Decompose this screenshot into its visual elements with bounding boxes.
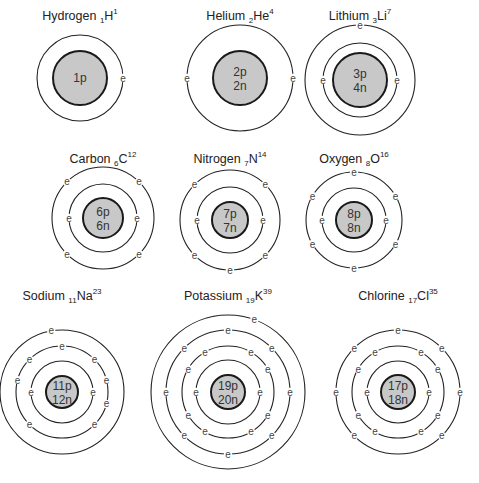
electron: e [15,375,21,386]
atom-oxygen: Oxygen 8O168p8neeeeeeee [306,150,402,274]
mass-number: 1 [113,7,118,16]
electron: e [202,426,208,437]
electron: e [355,364,361,375]
proton-count: 1p [73,71,87,85]
electron: e [393,239,399,250]
element-name: Lithium [329,9,373,23]
electron: e [225,449,231,460]
electron: e [269,343,275,354]
electron: e [333,387,339,398]
bohr-diagram: Hydrogen 1H11peHelium 2He42p2neeLithium … [0,0,479,483]
electron: e [27,354,33,365]
electron: e [227,265,233,276]
electron: e [355,410,361,421]
mass-number: 16 [380,150,389,159]
electron: e [134,213,140,224]
electron: e [92,354,98,365]
mass-number: 14 [258,150,267,159]
proton-count: 2p [233,65,247,79]
electron: e [439,343,445,354]
proton-count: 3p [353,67,367,81]
electron: e [263,179,269,190]
electron: e [48,325,54,336]
mass-number: 7 [387,7,392,16]
electron: e [181,430,187,441]
electron: e [248,426,254,437]
electron: e [395,325,401,336]
electron: e [265,364,271,375]
electron: e [351,430,357,441]
atom-label: Chlorine 17Cl35 [358,287,438,305]
electron: e [202,347,208,358]
atom-label: Nitrogen 7N14 [193,150,267,168]
element-name: Hydrogen [42,9,100,23]
electron: e [439,430,445,441]
electron: e [185,364,191,375]
neutron-count: 18n [388,393,408,407]
element-name: Carbon [70,152,114,166]
neutron-count: 6n [96,219,109,233]
atom-label: Hydrogen 1H1 [42,7,118,25]
electron: e [27,419,33,430]
neutron-count: 4n [353,81,366,95]
electron: e [192,250,198,261]
electron: e [185,410,191,421]
electron: e [383,215,389,226]
electron: e [265,410,271,421]
electron: e [64,249,70,260]
atom-sodium: Sodium 11Na2311p12neeeeeeeeeee [0,287,124,454]
proton-count: 6p [96,205,110,219]
mass-number: 12 [128,150,137,159]
atom-nitrogen: Nitrogen 7N147p7neeeeeee [180,150,280,276]
electron: e [320,75,326,86]
electron: e [194,215,200,226]
proton-count: 11p [52,379,71,393]
electron: e [260,215,266,226]
element-name: Sodium [22,289,68,303]
atom-label: Sodium 11Na23 [22,287,102,305]
element-symbol: He [253,9,269,23]
mass-number: 39 [263,287,272,296]
electron: e [357,20,363,31]
atom-potassium: Potassium 19K3919p20neeeeeeeeeeeeeeeeeee [151,287,305,469]
atom-helium: Helium 2He42p2nee [183,7,297,131]
electron: e [372,426,378,437]
electron: e [364,387,370,398]
electron: e [120,73,126,84]
element-name: Nitrogen [193,152,244,166]
element-symbol: Cl [417,289,429,303]
electron: e [351,263,357,274]
electron: e [136,249,142,260]
electron: e [393,191,399,202]
proton-count: 19p [218,379,238,393]
element-name: Oxygen [319,152,366,166]
neutron-count: 12n [52,393,72,407]
electron: e [252,314,258,325]
electron: e [104,375,110,386]
atom-label: Oxygen 8O16 [319,150,389,168]
neutron-count: 8n [347,221,360,235]
atom-lithium: Lithium 3Li73p4neee [305,7,415,135]
proton-count: 8p [347,207,361,221]
electron: e [287,387,293,398]
element-symbol: Li [377,9,387,23]
electron: e [90,387,96,398]
electron: e [426,387,432,398]
neutron-count: 2n [233,79,246,93]
electron: e [163,387,169,398]
electron: e [418,347,424,358]
mass-number: 23 [93,287,102,296]
electron: e [59,341,65,352]
electron: e [248,347,254,358]
electron: e [418,426,424,437]
electron: e [181,343,187,354]
electron: e [64,176,70,187]
electron: e [435,410,441,421]
electron: e [136,176,142,187]
element-symbol: N [249,152,258,166]
electron: e [319,215,325,226]
neutron-count: 7n [223,221,236,235]
electron: e [435,364,441,375]
proton-count: 7p [223,207,237,221]
element-symbol: Na [77,289,93,303]
